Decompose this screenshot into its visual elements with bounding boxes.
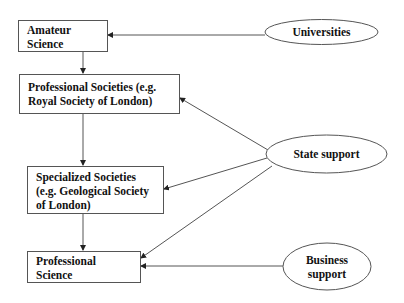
- box-professional-science: Professional Science: [27, 251, 141, 283]
- label-universities: Universities: [265, 19, 378, 45]
- edge-state-to-professional-societies: [180, 98, 268, 150]
- edge-state-to-specialized: [164, 158, 267, 189]
- box-specialized-societies: Specialized Societies (e.g. Geological S…: [27, 166, 164, 214]
- label-state-support: State support: [266, 135, 387, 173]
- box-amateur-science: Amateur Science: [18, 20, 108, 52]
- box-professional-societies: Professional Societies (e.g. Royal Socie…: [19, 74, 180, 114]
- label-business-support: Business support: [283, 243, 371, 290]
- diagram-canvas: Amateur Science Professional Societies (…: [0, 0, 404, 303]
